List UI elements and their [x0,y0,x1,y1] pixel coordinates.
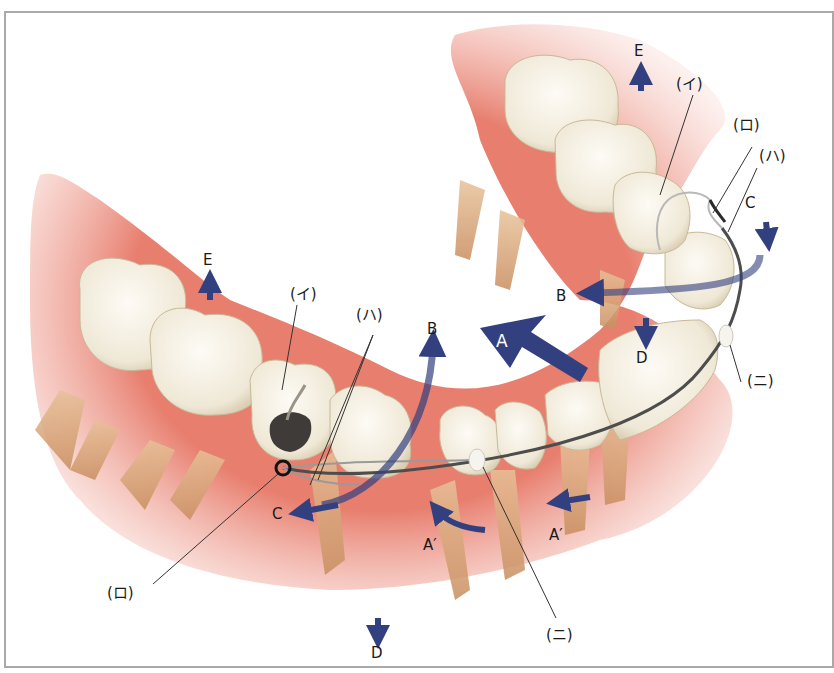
arrow-label-D-right: D [636,351,648,366]
label-ro-bottom: (ロ) [107,586,134,601]
attachment-left [469,449,485,471]
label-ni-bottom: (ニ) [546,628,573,643]
arrow-label-C-left: C [272,507,282,522]
label-i-left: (イ) [290,287,317,302]
arrow-label-E-top: E [634,44,643,59]
arrow-label-B-right: B [556,289,566,304]
label-ha-left: (ハ) [356,308,383,323]
arrow-label-D-bottom: D [371,646,383,661]
attachment-right [719,325,733,347]
arrow-C-right [766,222,768,240]
label-ni-right: (ニ) [747,374,774,389]
arrow-label-E-left: E [203,253,212,268]
label-ha-upper: (ハ) [759,149,786,164]
arrow-label-A-prime-2: A′ [549,528,563,543]
arrow-label-A: A [496,333,508,350]
arrow-label-A-prime-1: A′ [423,538,437,553]
arrow-label-B-left: B [427,322,437,337]
label-ro-upper: (ロ) [733,118,760,133]
arrow-label-C-right: C [745,196,755,211]
label-i-upper: (イ) [676,77,703,92]
